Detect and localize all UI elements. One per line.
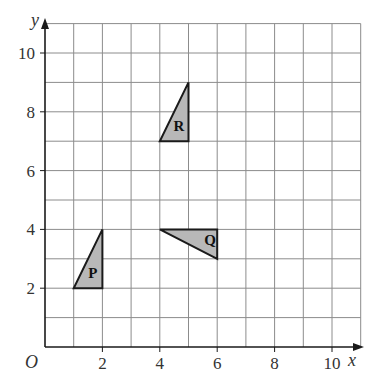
grid-lines	[45, 24, 361, 347]
y-tick-label: 6	[27, 162, 36, 181]
triangle-label: R	[174, 118, 185, 134]
origin-label: O	[25, 352, 38, 372]
triangle-label: P	[88, 265, 97, 281]
x-tick-label: 10	[324, 354, 341, 373]
coordinate-diagram: PQR 246810246810 y x O	[0, 0, 366, 391]
y-tick-label: 4	[27, 220, 36, 239]
tick-labels: 246810246810	[18, 44, 341, 373]
y-axis-label: y	[29, 10, 39, 30]
y-tick-label: 2	[27, 279, 36, 298]
x-tick-label: 8	[270, 354, 279, 373]
y-tick-label: 8	[27, 103, 36, 122]
grid-svg: PQR 246810246810 y x O	[0, 0, 366, 391]
x-axis-label: x	[347, 350, 356, 370]
x-tick-label: 4	[156, 354, 165, 373]
x-tick-label: 6	[213, 354, 222, 373]
x-tick-label: 2	[98, 354, 107, 373]
shapes: PQR	[74, 82, 218, 288]
triangle-label: Q	[204, 232, 216, 248]
y-tick-label: 10	[18, 44, 35, 63]
